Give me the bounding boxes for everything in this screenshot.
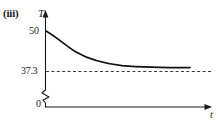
part-label: (iii) <box>3 8 19 19</box>
figure-container: (iii) T t 50 37.3 0 <box>0 0 220 126</box>
y-axis-label: T <box>38 8 44 19</box>
y-tick-label-initial: 50 <box>29 26 39 36</box>
decay-curve <box>46 31 190 68</box>
origin-label: 0 <box>36 99 41 109</box>
y-tick-label-asymptote: 37.3 <box>21 66 37 76</box>
graph-canvas <box>0 0 220 126</box>
x-axis-label: t <box>210 110 213 120</box>
y-axis-break-icon <box>42 90 49 103</box>
